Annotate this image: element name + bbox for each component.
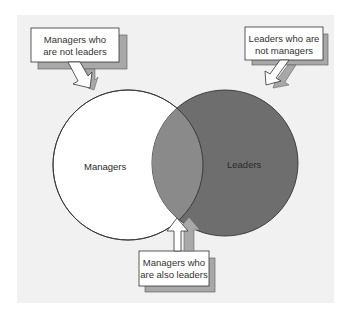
callout-managers-only: Managers who are not leaders — [31, 28, 127, 90]
callout-text: Leaders who are — [249, 33, 320, 44]
callout-text: are also leaders — [140, 269, 208, 280]
leaders-label: Leaders — [227, 159, 262, 170]
venn-diagram: Managers Leaders Managers who are not le… — [0, 0, 350, 314]
callout-text: Managers who — [143, 257, 205, 268]
callout-text: Managers who — [44, 34, 106, 45]
managers-label: Managers — [84, 161, 126, 172]
callout-text: are not leaders — [43, 46, 107, 57]
callout-leaders-only: Leaders who are not managers — [245, 27, 328, 88]
callout-text: not managers — [255, 45, 313, 56]
